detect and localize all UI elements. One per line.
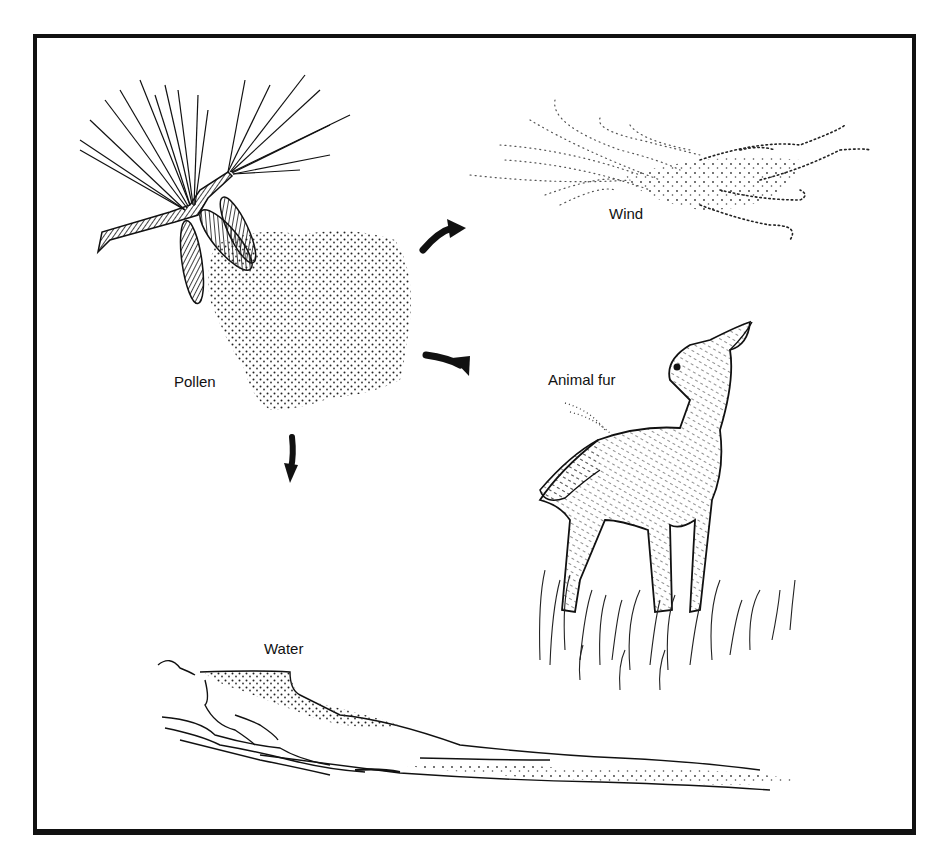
pollen-label: Pollen	[174, 373, 216, 390]
animal-fur-label: Animal fur	[548, 371, 616, 388]
wind-streams-icon	[470, 100, 870, 240]
illustration-canvas	[0, 0, 948, 855]
water-pollen-deposit-icon	[205, 670, 400, 727]
wind-label: Wind	[609, 205, 643, 222]
arrow-to-wind-icon	[423, 219, 466, 250]
arrow-to-water-icon	[284, 437, 298, 483]
arrow-to-animal-icon	[426, 355, 470, 376]
pollen-cloud-icon	[208, 231, 411, 410]
water-label: Water	[264, 640, 303, 657]
deer-icon	[540, 322, 752, 612]
